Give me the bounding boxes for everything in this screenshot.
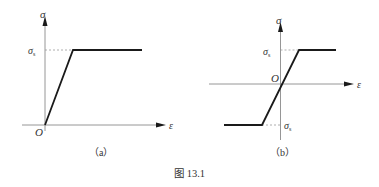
origin-label-a: O — [35, 126, 43, 138]
panel-label-b: （b） — [270, 147, 295, 158]
figure-caption: 图 13.1 — [174, 168, 205, 179]
figure-13-1: σ σs O ε （a） σ σs σs O ε （b） 图 13.1 — [0, 0, 379, 187]
panel-b: σ σs σs O ε （b） — [209, 14, 361, 158]
epsilon-arrow-icon-b — [344, 82, 354, 87]
epsilon-label-b: ε — [357, 79, 361, 90]
yield-label-bottom-b: σs — [284, 120, 292, 132]
yield-label-a: σs — [28, 45, 36, 57]
sigma-label-a: σ — [40, 8, 46, 20]
panel-a: σ σs O ε （a） — [22, 8, 173, 158]
stress-strain-curve-b — [224, 50, 336, 125]
sigma-label-b: σ — [276, 14, 282, 26]
origin-label-b: O — [271, 72, 279, 84]
yield-label-top-b: σs — [263, 46, 271, 58]
stress-strain-curve-a — [45, 50, 142, 125]
panel-label-a: （a） — [89, 147, 113, 158]
epsilon-label-a: ε — [169, 120, 173, 131]
epsilon-arrow-icon-a — [156, 123, 166, 128]
